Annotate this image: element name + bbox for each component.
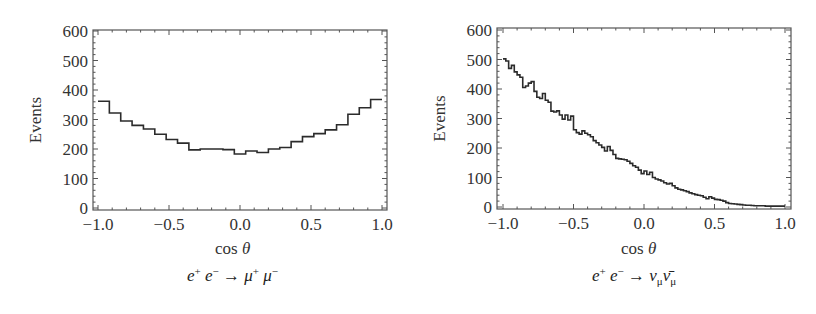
x-tick-label: 0.5 [704,214,725,233]
y-tick-label: 200 [467,139,493,158]
x-axis-title-variable: θ [242,239,250,258]
x-tick-label: −1.0 [83,215,114,234]
caption-particle: μ [244,266,253,285]
caption-charge: − [618,265,624,277]
caption-particle: e [187,266,195,285]
process-caption: e+ e− → νμν̄μ [592,266,676,286]
caption-particle: e [610,266,618,285]
caption-charge: + [253,265,259,277]
caption-particle: ν [649,266,657,285]
x-tick-label: 1.0 [774,214,795,233]
caption-charge: − [272,265,278,277]
y-tick-label: 600 [63,22,89,41]
process-caption: e+ e− → μ+ μ− [187,266,278,286]
caption-arrow: → [628,266,645,285]
histogram-panel-nunu: 0100200300400500600−1.0−0.50.00.51.0Even… [408,0,816,314]
x-axis-title: cos θ [621,239,656,259]
x-tick-label: 0.5 [300,215,321,234]
x-tick-label: 0.0 [229,215,250,234]
caption-arrow: → [223,266,240,285]
caption-particle: e [205,266,213,285]
plot-frame [497,28,791,209]
caption-particle: e [592,266,600,285]
x-tick-label: −0.5 [558,214,589,233]
x-axis-title-variable: θ [648,239,656,258]
y-tick-label: 500 [63,52,89,71]
y-axis-title: Events [26,97,45,143]
caption-charge: − [213,265,219,277]
x-tick-label: −1.0 [488,214,519,233]
y-tick-label: 100 [467,169,493,188]
x-axis-title: cos θ [215,239,250,259]
caption-charge: + [195,265,201,277]
y-tick-label: 300 [467,110,493,129]
y-tick-label: 400 [63,81,89,100]
caption-flavor: μ [670,275,676,287]
plot-frame [93,30,387,210]
x-tick-label: 1.0 [371,215,392,234]
x-tick-label: −0.5 [154,215,185,234]
y-tick-label: 600 [467,21,493,40]
y-tick-label: 300 [63,111,89,130]
y-tick-label: 500 [467,51,493,70]
histogram-step-line [98,99,382,154]
histogram-panel-mumu: 0100200300400500600−1.0−0.50.00.51.0Even… [0,0,408,314]
y-axis-title: Events [430,95,449,141]
x-axis-title-prefix: cos [621,239,648,258]
x-axis-title-prefix: cos [215,239,242,258]
y-tick-label: 100 [63,170,89,189]
y-tick-label: 200 [63,140,89,159]
caption-particle: μ [263,266,272,285]
x-tick-label: 0.0 [633,214,654,233]
y-tick-label: 400 [467,80,493,99]
histogram-step-line [503,59,785,206]
caption-charge: + [600,265,606,277]
